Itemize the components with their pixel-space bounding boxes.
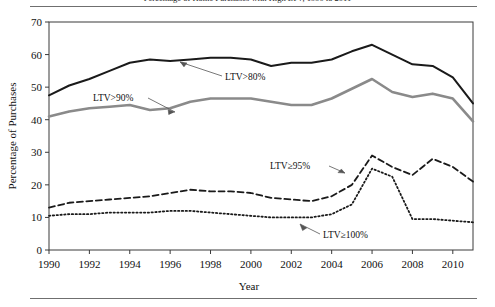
y-tick-label: 40: [31, 114, 43, 126]
x-axis-label: Year: [239, 280, 260, 292]
y-tick-label: 30: [31, 146, 43, 158]
y-axis-ticks: 010203040506070: [31, 16, 49, 256]
annotation-ltv90: LTV>90%: [93, 93, 133, 103]
x-tick-label: 1990: [38, 258, 61, 270]
x-tick-label: 1998: [200, 258, 223, 270]
figure-bottom-rule: [30, 298, 477, 299]
chart-svg: 010203040506070 199019921994199619982000…: [0, 0, 495, 307]
x-tick-label: 2000: [240, 258, 263, 270]
x-axis-ticks: 1990199219941996199820002002200420062008…: [38, 250, 464, 270]
y-tick-label: 70: [31, 16, 43, 28]
y-tick-label: 0: [37, 244, 43, 256]
x-tick-label: 1994: [119, 258, 142, 270]
x-tick-label: 1996: [159, 258, 182, 270]
x-tick-label: 2010: [442, 258, 465, 270]
y-tick-label: 10: [31, 211, 43, 223]
x-tick-label: 2002: [280, 258, 302, 270]
annotation-ltv80: LTV>80%: [225, 72, 265, 82]
y-tick-label: 60: [31, 49, 43, 61]
y-tick-label: 20: [31, 179, 43, 191]
x-tick-label: 2004: [321, 258, 344, 270]
x-tick-label: 2008: [401, 258, 424, 270]
x-tick-label: 1992: [78, 258, 100, 270]
annotation-ltv100: LTV≥100%: [323, 230, 368, 240]
y-axis-label: Percentage of Purchases: [6, 83, 18, 190]
leader-arrow-ltv80: [180, 62, 187, 67]
x-tick-label: 2006: [361, 258, 384, 270]
leader-arrow-ltv95: [338, 169, 345, 173]
figure-container: Percentage of Home Purchases with High L…: [0, 0, 495, 307]
annotation-ltv95: LTV≥95%: [270, 161, 310, 171]
chart-plot-area: 010203040506070 199019921994199619982000…: [0, 0, 495, 307]
plot-frame: [49, 22, 473, 250]
y-tick-label: 50: [31, 81, 43, 93]
leader-arrow-ltv100: [300, 224, 307, 231]
series-line-ltv95: [49, 156, 473, 208]
